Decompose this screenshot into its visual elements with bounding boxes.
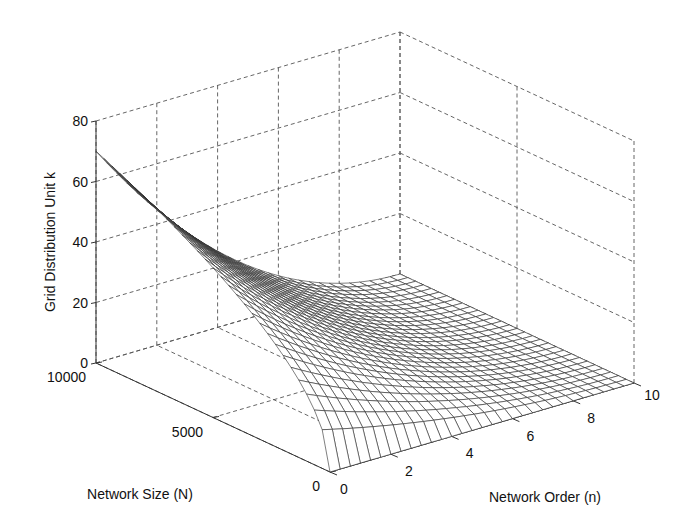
surface-plot: 02040608005000100000246810 Grid Distribu… bbox=[0, 0, 700, 530]
z-tick bbox=[91, 363, 96, 364]
grid-line bbox=[96, 32, 400, 121]
z-tick bbox=[91, 121, 96, 122]
y-tick bbox=[96, 362, 102, 363]
z-tick bbox=[91, 303, 96, 304]
z-tick-label: 20 bbox=[72, 295, 88, 311]
x-tick-label: 6 bbox=[527, 428, 535, 444]
y-tick-label: 0 bbox=[312, 478, 320, 494]
z-axis-title: Grid Distribution Unit k bbox=[42, 171, 58, 312]
x-axis-title: Network Order (n) bbox=[489, 489, 601, 505]
grid-line bbox=[96, 153, 400, 242]
x-tick-label: 0 bbox=[340, 481, 348, 497]
z-tick-label: 60 bbox=[72, 174, 88, 190]
grid-line bbox=[96, 93, 400, 182]
x-tick-label: 8 bbox=[587, 410, 595, 426]
x-tick bbox=[573, 401, 580, 404]
x-tick bbox=[512, 419, 519, 422]
z-tick bbox=[91, 242, 96, 243]
z-tick-label: 40 bbox=[72, 234, 88, 250]
y-axis-title: Network Size (N) bbox=[87, 486, 193, 502]
z-tick bbox=[91, 182, 96, 183]
y-tick-label: 5000 bbox=[172, 424, 203, 440]
y-tick bbox=[213, 417, 219, 418]
x-tick bbox=[452, 436, 459, 439]
x-tick-label: 4 bbox=[466, 445, 474, 461]
z-tick-label: 80 bbox=[72, 113, 88, 129]
x-tick bbox=[634, 383, 641, 386]
x-tick bbox=[391, 454, 398, 457]
x-tick-label: 10 bbox=[644, 387, 660, 403]
x-tick bbox=[330, 472, 337, 475]
x-tick-label: 2 bbox=[405, 463, 413, 479]
y-tick-label: 10000 bbox=[47, 369, 86, 385]
